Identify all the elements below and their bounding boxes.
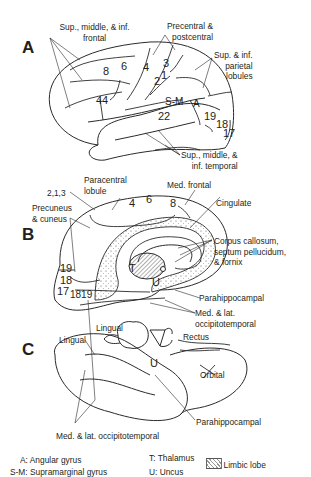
area-6-medial: 6: [146, 194, 152, 205]
area-3: 3: [163, 58, 169, 69]
legend-uncus: U: Uncus: [149, 466, 183, 477]
area-1: 1: [161, 70, 167, 81]
label-orbital: Orbital: [200, 370, 225, 381]
label-temporal-gyri: Sup., middle, & inf. temporal: [181, 150, 238, 171]
legend-supramarginal-gyrus: S-M: Supramarginal gyrus: [10, 466, 107, 477]
label-precuneus-cuneus: Precuneus & cuneus: [32, 203, 72, 224]
label-areas-2-1-3: 2,1,3: [47, 188, 66, 199]
uncus-label-b: U: [152, 277, 160, 288]
area-44: 44: [96, 95, 108, 106]
area-18-19-medial: 1819: [70, 289, 92, 300]
legend-limbic-lobe: Limbic lobe: [206, 458, 266, 470]
area-22: 22: [158, 111, 170, 122]
area-19-medial: 19: [60, 263, 72, 274]
panel-label-b: B: [22, 225, 34, 245]
area-8-medial: 8: [170, 198, 176, 209]
uncus-label-c: U: [150, 358, 158, 369]
label-paracentral-lobule: Paracentral lobule: [84, 175, 127, 196]
panel-a-outline: [49, 42, 233, 160]
panel-label-c: C: [22, 340, 34, 360]
label-cingulate: Cingulate: [216, 198, 251, 209]
label-parietal-lobules: Sup. & inf. parietal lobules: [214, 50, 253, 82]
thalamus-label: T: [129, 263, 136, 274]
label-parahippocampal-c: Parahippocampal: [196, 417, 261, 428]
label-lingual-lower: Lingual: [59, 335, 86, 346]
label-rectus: Rectus: [183, 332, 209, 343]
legend-angular-gyrus: A: Angular gyrus: [20, 454, 81, 465]
area-4-medial: 4: [129, 198, 135, 209]
area-17: 17: [223, 128, 235, 139]
label-medial-frontal: Med. frontal: [167, 180, 211, 191]
limbic-lobe-swatch-icon: [206, 458, 222, 469]
area-19: 19: [204, 111, 216, 122]
legend-thalamus: T: Thalamus: [149, 452, 194, 463]
label-corpus-callosum: Corpus callosum, septum pellucidum, & fo…: [214, 236, 286, 268]
uncus-marker: [161, 267, 166, 272]
area-angular: A: [193, 98, 200, 109]
area-17-medial: 17: [57, 286, 69, 297]
area-supramarginal: S-M: [165, 96, 183, 107]
legend-limbic-lobe-text: Limbic lobe: [224, 459, 266, 470]
label-parahippocampal-b: Parahippocampal: [199, 293, 264, 304]
area-6: 6: [121, 61, 127, 72]
label-occipitotemporal-b: Med. & lat. occipitotemporal: [195, 308, 256, 329]
area-2: 2: [154, 76, 160, 87]
label-frontal-gyri: Sup., middle, & inf. frontal: [33, 22, 156, 43]
label-precentral-postcentral: Precentral & postcentral: [167, 21, 213, 42]
area-4: 4: [143, 62, 149, 73]
label-occipitotemporal-c: Med. & lat. occipitotemporal: [56, 431, 159, 442]
label-lingual-upper: Lingual: [96, 323, 123, 334]
area-8: 8: [103, 66, 109, 77]
